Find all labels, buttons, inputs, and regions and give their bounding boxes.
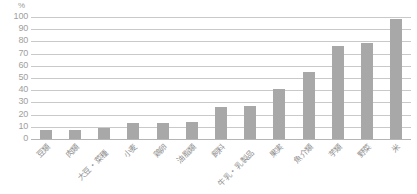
bar-飼料[interactable] [215,107,227,139]
bars-group [31,17,411,139]
bar-slot [148,17,177,139]
x-label-slot: 小麦 [119,140,148,194]
x-tick-label-芋類: 芋類 [327,142,345,160]
bar-大豆・菜種[interactable] [98,128,110,139]
x-tick-label-小麦: 小麦 [122,142,140,160]
bar-slot [206,17,235,139]
y-tick-label-70: 70 [2,49,28,58]
bar-野菜[interactable] [361,43,373,139]
bar-slot [177,17,206,139]
x-label-slot: 牛乳・乳製品 [236,140,265,194]
bar-slot [353,17,382,139]
bar-牛乳・乳製品[interactable] [244,106,256,139]
bar-slot [382,17,411,139]
bar-slot [323,17,352,139]
x-label-slot: 米 [382,140,411,194]
x-tick-label-野菜: 野菜 [356,142,374,160]
bar-果実[interactable] [273,89,285,139]
bar-魚介類[interactable] [303,72,315,139]
bar-油脂類[interactable] [186,122,198,139]
x-tick-label-肉類: 肉類 [64,142,82,160]
x-label-slot: 魚介類 [294,140,323,194]
x-label-slot: 大豆・菜種 [89,140,118,194]
x-tick-label-飼料: 飼料 [210,142,228,160]
y-tick-label-0: 0 [2,134,28,143]
x-tick-label-豆類: 豆類 [34,142,52,160]
bar-chart: % 1009080706050403020100 豆類肉類大豆・菜種小麦鶏卵油脂… [0,0,417,194]
x-label-slot: 野菜 [353,140,382,194]
bar-小麦[interactable] [127,123,139,139]
x-label-slot: 芋類 [323,140,352,194]
x-tick-label-油脂類: 油脂類 [175,142,198,165]
y-tick-label-60: 60 [2,61,28,70]
y-tick-label-30: 30 [2,97,28,106]
y-tick-label-100: 100 [2,12,28,21]
x-axis-tick-labels: 豆類肉類大豆・菜種小麦鶏卵油脂類飼料牛乳・乳製品果実魚介類芋類野菜米 [31,140,411,194]
bar-slot [265,17,294,139]
y-tick-label-90: 90 [2,24,28,33]
bar-肉類[interactable] [69,130,81,139]
bar-slot [119,17,148,139]
bar-豆類[interactable] [40,130,52,139]
x-tick-label-米: 米 [391,142,403,154]
bar-米[interactable] [390,19,402,139]
y-tick-label-50: 50 [2,73,28,82]
bar-鶏卵[interactable] [157,123,169,139]
bar-slot [60,17,89,139]
x-label-slot: 鶏卵 [148,140,177,194]
y-tick-label-10: 10 [2,122,28,131]
x-label-slot: 油脂類 [177,140,206,194]
y-tick-label-40: 40 [2,85,28,94]
x-label-slot: 豆類 [31,140,60,194]
plot-area: 1009080706050403020100 [31,17,411,139]
y-tick-label-80: 80 [2,36,28,45]
bar-slot [89,17,118,139]
x-tick-label-魚介類: 魚介類 [292,142,315,165]
y-axis-unit-label: % [18,1,25,10]
y-tick-label-20: 20 [2,110,28,119]
bar-芋類[interactable] [332,46,344,139]
bar-slot [31,17,60,139]
x-label-slot: 果実 [265,140,294,194]
bar-slot [236,17,265,139]
x-tick-label-果実: 果実 [268,142,286,160]
x-tick-label-鶏卵: 鶏卵 [151,142,169,160]
bar-slot [294,17,323,139]
